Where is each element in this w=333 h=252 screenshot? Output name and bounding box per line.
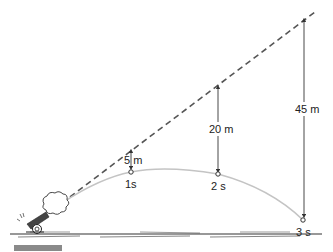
smoke-puff-icon [43, 192, 69, 215]
straight-path-dashed-line [62, 12, 315, 203]
time-label-2s: 2 s [211, 180, 226, 192]
drop-label-1s: 5 m [124, 154, 142, 166]
time-label-1s: 1s [125, 178, 137, 190]
ground-line [10, 232, 322, 237]
cannon-icon [17, 212, 49, 234]
ball-3s [301, 218, 305, 222]
ball-1s [129, 170, 133, 174]
drop-label-2s: 20 m [209, 123, 233, 135]
projectile-diagram: 5 m 20 m 45 m 1s 2 s 3 s [0, 0, 333, 252]
drop-label-3s: 45 m [295, 103, 319, 115]
ball-2s [216, 172, 220, 176]
caption-bar [14, 245, 62, 251]
